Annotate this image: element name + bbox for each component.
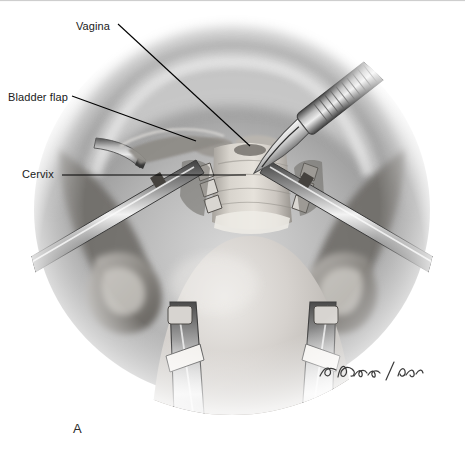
- medical-illustration-figure: Vagina Bladder flap Cervix A: [0, 0, 465, 470]
- illustration-artwork: [0, 0, 465, 470]
- label-vagina: Vagina: [76, 20, 110, 32]
- panel-label: A: [73, 421, 82, 436]
- label-bladder-flap: Bladder flap: [8, 91, 68, 103]
- label-cervix: Cervix: [22, 168, 54, 180]
